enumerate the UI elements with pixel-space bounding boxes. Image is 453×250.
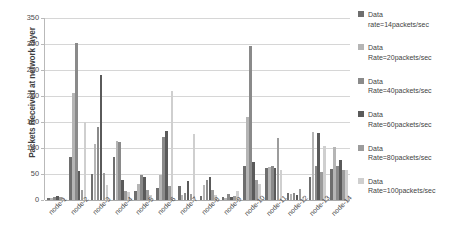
legend-item[interactable]: DataRate=100packets/sec bbox=[358, 177, 453, 196]
bar-group bbox=[67, 18, 89, 200]
legend-item[interactable]: Datarate=14packets/sec bbox=[358, 10, 453, 29]
bar-group bbox=[197, 18, 219, 200]
bar-group bbox=[110, 18, 132, 200]
legend-item[interactable]: DataRate=60packets/sec bbox=[358, 110, 453, 129]
x-label-cell: node-4 bbox=[110, 201, 132, 247]
x-label-cell: node-2 bbox=[66, 201, 88, 247]
bar bbox=[84, 122, 87, 200]
x-label-cell: node-13 bbox=[306, 201, 328, 247]
bar-groups bbox=[45, 18, 350, 200]
x-label-cell: node-7 bbox=[175, 201, 197, 247]
legend-label-line1: Data bbox=[368, 110, 432, 120]
legend-label-line1: Data bbox=[368, 10, 429, 20]
legend-label-line1: Data bbox=[368, 43, 432, 53]
y-tick-mark bbox=[41, 44, 44, 45]
y-tick-label: 50 bbox=[5, 169, 39, 178]
bar-group bbox=[285, 18, 307, 200]
bar-group bbox=[328, 18, 350, 200]
legend-label: DataRate=40packets/sec bbox=[368, 77, 432, 96]
legend-label-line2: Rate=20packets/sec bbox=[368, 53, 432, 63]
chart-legend: Datarate=14packets/secDataRate=20packets… bbox=[358, 10, 453, 210]
legend-label-line1: Data bbox=[368, 144, 432, 154]
bar-group bbox=[263, 18, 285, 200]
legend-swatch-icon bbox=[358, 178, 364, 184]
legend-label: DataRate=100packets/sec bbox=[368, 177, 436, 196]
legend-label: Datarate=14packets/sec bbox=[368, 10, 429, 29]
legend-item[interactable]: DataRate=40packets/sec bbox=[358, 77, 453, 96]
x-axis-labels: node-1node-2node-3node-4node-5node-6node… bbox=[44, 201, 350, 247]
legend-label: DataRate=60packets/sec bbox=[368, 110, 432, 129]
legend-label-line2: rate=14packets/sec bbox=[368, 20, 429, 30]
x-label-cell: node-9 bbox=[219, 201, 241, 247]
bar-group bbox=[89, 18, 111, 200]
y-tick-mark bbox=[41, 122, 44, 123]
x-label-cell: node-11 bbox=[263, 201, 285, 247]
y-tick-label: 150 bbox=[5, 117, 39, 126]
y-tick-label: 200 bbox=[5, 91, 39, 100]
legend-label: DataRate=20packets/sec bbox=[368, 43, 432, 62]
bar-group bbox=[132, 18, 154, 200]
y-tick-label: 0 bbox=[5, 195, 39, 204]
y-tick-mark bbox=[41, 148, 44, 149]
x-label-cell: node-3 bbox=[88, 201, 110, 247]
y-tick-label: 250 bbox=[5, 65, 39, 74]
x-label-cell: node-12 bbox=[284, 201, 306, 247]
legend-item[interactable]: DataRate=20packets/sec bbox=[358, 43, 453, 62]
legend-label-line1: Data bbox=[368, 77, 432, 87]
y-tick-mark bbox=[41, 70, 44, 71]
legend-swatch-icon bbox=[358, 11, 364, 17]
x-label-cell: node-10 bbox=[241, 201, 263, 247]
bar-group bbox=[219, 18, 241, 200]
legend-swatch-icon bbox=[358, 111, 364, 117]
legend-swatch-icon bbox=[358, 78, 364, 84]
y-tick-label: 350 bbox=[5, 13, 39, 22]
legend-label-line1: Data bbox=[368, 177, 436, 187]
bar-group bbox=[241, 18, 263, 200]
legend-label-line2: Rate=60packets/sec bbox=[368, 120, 432, 130]
x-label-cell: node-8 bbox=[197, 201, 219, 247]
legend-swatch-icon bbox=[358, 145, 364, 151]
legend-label-line2: Rate=100packets/sec bbox=[368, 186, 436, 196]
bar-group bbox=[176, 18, 198, 200]
legend-label: DataRate=80packets/sec bbox=[368, 144, 432, 163]
legend-item[interactable]: DataRate=80packets/sec bbox=[358, 144, 453, 163]
bar bbox=[171, 91, 174, 200]
y-tick-mark bbox=[41, 96, 44, 97]
y-tick-mark bbox=[41, 18, 44, 19]
y-tick-mark bbox=[41, 174, 44, 175]
x-label-cell: node-6 bbox=[153, 201, 175, 247]
legend-label-line2: Rate=40packets/sec bbox=[368, 86, 432, 96]
bar bbox=[193, 134, 196, 200]
x-label-cell: node-1 bbox=[44, 201, 66, 247]
x-label-cell: node-14 bbox=[328, 201, 350, 247]
bar-group bbox=[306, 18, 328, 200]
legend-swatch-icon bbox=[358, 44, 364, 50]
plot-area bbox=[44, 18, 350, 200]
y-tick-label: 100 bbox=[5, 143, 39, 152]
bar-group bbox=[154, 18, 176, 200]
x-label-cell: node-5 bbox=[131, 201, 153, 247]
bar bbox=[323, 146, 326, 200]
legend-label-line2: Rate=80packets/sec bbox=[368, 153, 432, 163]
bar-group bbox=[45, 18, 67, 200]
y-tick-label: 300 bbox=[5, 39, 39, 48]
bar-chart: Packets Received at network layer 050100… bbox=[0, 0, 453, 250]
